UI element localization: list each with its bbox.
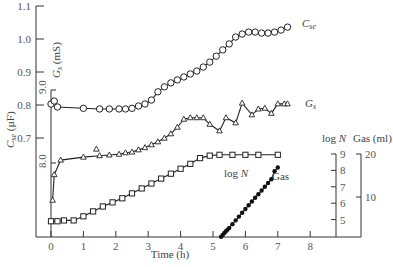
svg-text:1.0: 1.0 [17,33,31,45]
cse-axis-label: Cse (µF) [4,111,18,148]
series-c_se [48,24,291,112]
logn-series-label: log N [224,167,249,179]
logn-axis-label: log N [322,132,347,144]
x-tick-label: 7 [275,240,281,252]
svg-text:0.7: 0.7 [17,132,31,144]
logn-axis: 98765 log N [322,132,347,237]
series-g_s [50,100,291,202]
cse-series-label: Cse [302,17,316,31]
chart: 012345678 Time (h) 1.11.00.90.80.7 Cse (… [0,0,393,267]
gs-axis: 9.0 8.0 Gs (mS) [36,42,64,237]
series-layer [48,24,291,239]
gs-axis-label: Gs (mS) [50,42,64,78]
gs-series-label: Gs [305,97,316,111]
svg-text:20: 20 [365,148,377,160]
x-axis-label: Time (h) [151,248,190,261]
svg-text:7: 7 [340,181,346,193]
gas-axis-label: Gas (ml) [353,132,392,145]
svg-text:0.8: 0.8 [17,99,31,111]
cse-axis: 1.11.00.90.80.7 Cse (µF) [4,0,44,237]
x-tick-label: 1 [81,240,87,252]
svg-text:0.9: 0.9 [17,66,31,78]
x-tick-label: 0 [48,240,54,252]
svg-text:9.0: 9.0 [36,80,48,94]
svg-text:8.0: 8.0 [36,154,48,168]
gas-axis: 20 10 Gas (ml) [353,132,392,237]
svg-text:10: 10 [365,191,377,203]
gas-series-label: Gas [272,170,289,182]
svg-text:1.1: 1.1 [17,0,31,12]
svg-text:9: 9 [340,148,346,160]
x-tick-label: 5 [210,240,216,252]
x-tick-label: 6 [243,240,249,252]
series-log-n [48,152,280,224]
x-axis: 012345678 Time (h) [36,231,361,261]
svg-text:8: 8 [340,164,346,176]
x-tick-label: 8 [307,240,313,252]
svg-text:5: 5 [340,214,346,226]
x-tick-label: 2 [113,240,119,252]
svg-text:6: 6 [340,197,346,209]
